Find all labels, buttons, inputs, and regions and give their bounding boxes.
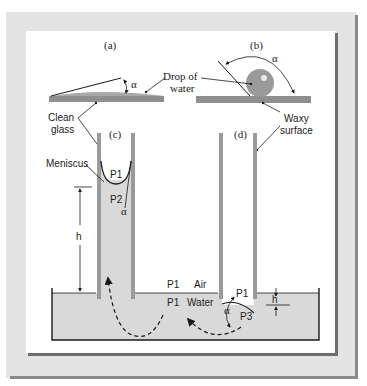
waxy-surface bbox=[196, 96, 311, 103]
panel-a: (a) α Clean glass bbox=[48, 39, 165, 149]
p1-water: P1 bbox=[167, 297, 180, 308]
clean-label-2: glass bbox=[51, 124, 74, 135]
basin-water bbox=[52, 293, 319, 340]
alpha-c: α bbox=[121, 205, 127, 217]
alpha-b: α bbox=[272, 52, 278, 64]
drop-leader-b bbox=[201, 78, 251, 84]
alpha-d: α bbox=[224, 304, 230, 316]
panel-d-label: (d) bbox=[234, 128, 247, 141]
water-drop bbox=[246, 69, 274, 97]
alpha-a: α bbox=[131, 78, 137, 90]
h-label-c: h bbox=[76, 231, 82, 242]
p3-d: P3 bbox=[240, 311, 253, 322]
contact-angle-tangent bbox=[218, 61, 250, 96]
water-label: Water bbox=[187, 297, 214, 308]
p1-air: P1 bbox=[167, 279, 180, 290]
water-film bbox=[52, 92, 164, 96]
drop-of-water-label-2: water bbox=[170, 82, 195, 94]
p1-d: P1 bbox=[236, 288, 249, 299]
h-label-d: h bbox=[272, 294, 278, 305]
p2-c: P2 bbox=[110, 194, 123, 205]
tube-c-left-wall bbox=[97, 133, 101, 299]
angle-arc-a bbox=[124, 80, 127, 93]
panel-c-label: (c) bbox=[109, 128, 122, 141]
air-label: Air bbox=[194, 279, 207, 290]
tube-d-right-wall bbox=[253, 133, 257, 299]
waxy-leader-tube bbox=[257, 126, 280, 150]
waxy-label-2: surface bbox=[280, 125, 313, 136]
panel-b-label: (b) bbox=[250, 39, 263, 52]
drop-of-water-label-1: Drop of bbox=[163, 70, 198, 82]
clean-label-1: Clean bbox=[48, 112, 74, 123]
panel-a-label: (a) bbox=[104, 39, 117, 52]
clean-glass-leader bbox=[78, 103, 96, 118]
meniscus-label: Meniscus bbox=[46, 158, 88, 169]
capillarity-diagram: (a) α Clean glass Drop of water (b) α Wa… bbox=[0, 0, 367, 386]
waxy-label-1: Waxy bbox=[284, 113, 309, 124]
clean-glass-leader-tube bbox=[78, 118, 100, 148]
water-basin bbox=[52, 288, 319, 340]
tube-d-left-wall bbox=[219, 133, 223, 299]
waxy-leader bbox=[263, 103, 280, 112]
clean-glass-surface bbox=[49, 96, 164, 102]
tube-c-right-wall bbox=[131, 133, 135, 299]
p1-c: P1 bbox=[110, 169, 123, 180]
